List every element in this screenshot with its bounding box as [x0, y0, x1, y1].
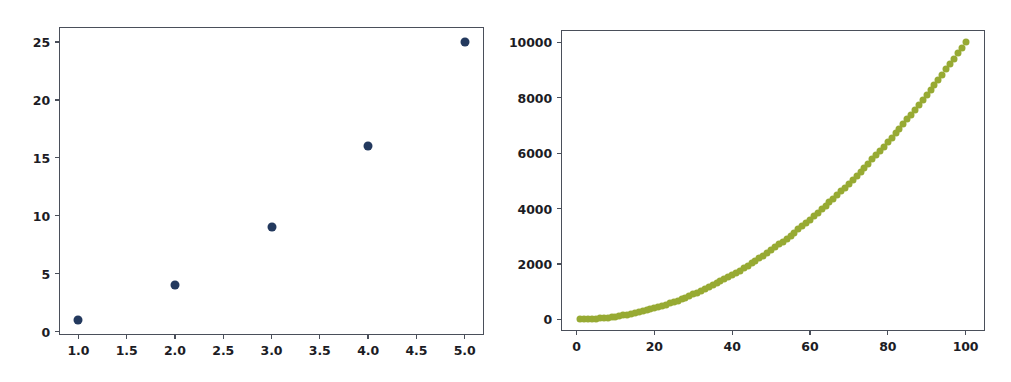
- x-tick-mark: [319, 335, 320, 339]
- figure-canvas: 05101520251.01.52.02.53.03.54.04.55.0 02…: [0, 0, 1011, 382]
- y-tick-label: 4000: [518, 201, 552, 216]
- x-tick-label: 2.0: [164, 343, 186, 358]
- y-tick-label: 25: [33, 35, 50, 50]
- x-tick-label: 0: [572, 339, 581, 354]
- y-tick-mark: [55, 99, 59, 100]
- y-tick-mark: [55, 41, 59, 42]
- x-tick-mark: [126, 335, 127, 339]
- x-tick-mark: [271, 335, 272, 339]
- plot-area-left: [59, 27, 484, 335]
- x-tick-mark: [416, 335, 417, 339]
- x-tick-mark: [809, 331, 810, 335]
- y-tick-label: 15: [33, 150, 50, 165]
- x-tick-label: 3.0: [261, 343, 283, 358]
- y-tick-mark: [557, 208, 561, 209]
- chart-panel-left: 05101520251.01.52.02.53.03.54.04.55.0: [0, 0, 500, 382]
- y-tick-label: 20: [33, 92, 50, 107]
- x-tick-label: 80: [879, 339, 896, 354]
- y-tick-label: 0: [41, 324, 50, 339]
- plot-area-right: [561, 30, 985, 331]
- y-tick-label: 5: [41, 266, 50, 281]
- y-tick-mark: [55, 215, 59, 216]
- x-tick-label: 1.5: [116, 343, 138, 358]
- y-tick-label: 6000: [518, 146, 552, 161]
- x-tick-mark: [965, 331, 966, 335]
- x-tick-label: 1.0: [67, 343, 89, 358]
- y-tick-mark: [557, 153, 561, 154]
- y-tick-mark: [55, 273, 59, 274]
- scatter-point: [962, 39, 969, 46]
- y-tick-mark: [55, 157, 59, 158]
- x-tick-mark: [654, 331, 655, 335]
- y-tick-label: 8000: [518, 90, 552, 105]
- x-tick-mark: [887, 331, 888, 335]
- x-tick-mark: [367, 335, 368, 339]
- y-tick-mark: [557, 263, 561, 264]
- x-tick-mark: [223, 335, 224, 339]
- x-tick-mark: [464, 335, 465, 339]
- x-tick-label: 3.5: [309, 343, 331, 358]
- x-tick-mark: [732, 331, 733, 335]
- y-tick-label: 0: [543, 312, 552, 327]
- x-tick-label: 60: [801, 339, 818, 354]
- y-tick-label: 10: [33, 208, 50, 223]
- scatter-point: [267, 223, 276, 232]
- scatter-point: [74, 315, 83, 324]
- y-tick-label: 2000: [518, 256, 552, 271]
- x-tick-label: 4.0: [357, 343, 379, 358]
- x-tick-mark: [576, 331, 577, 335]
- y-tick-mark: [557, 319, 561, 320]
- x-tick-mark: [174, 335, 175, 339]
- scatter-point: [364, 142, 373, 151]
- x-tick-label: 5.0: [454, 343, 476, 358]
- y-tick-mark: [55, 331, 59, 332]
- x-tick-label: 2.5: [212, 343, 234, 358]
- chart-panel-right: 0200040006000800010000020406080100: [500, 0, 1011, 382]
- y-tick-mark: [557, 97, 561, 98]
- x-tick-label: 40: [724, 339, 741, 354]
- scatter-point: [460, 38, 469, 47]
- y-tick-label: 10000: [509, 35, 552, 50]
- x-tick-label: 20: [646, 339, 663, 354]
- scatter-point: [170, 281, 179, 290]
- x-tick-label: 100: [953, 339, 979, 354]
- x-tick-label: 4.5: [405, 343, 427, 358]
- y-tick-mark: [557, 42, 561, 43]
- x-tick-mark: [78, 335, 79, 339]
